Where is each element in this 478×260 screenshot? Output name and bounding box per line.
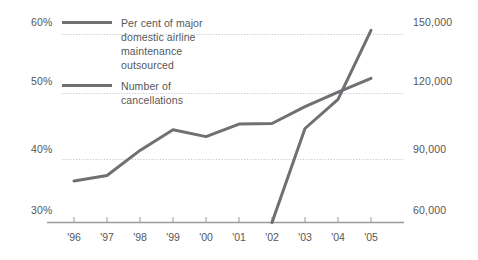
y-axis-right-tick-120000: 120,000 [413,75,452,87]
x-axis-label-99: '99 [166,231,180,243]
y-axis-left-tick-40: 40% [31,143,53,155]
y-axis-left-tick-60: 60% [31,16,53,28]
x-axis-label-03: '03 [298,231,312,243]
y-axis-left-tick-50: 50% [31,75,53,87]
legend-label-percent-outsourced: Per cent of major domestic airline maint… [121,16,203,72]
legend-item-percent-outsourced: Per cent of major domestic airline maint… [62,16,203,72]
series-line-cancellations [272,30,371,222]
legend-item-cancellations: Number of cancellations [62,79,183,107]
legend-label-cancellations: Number of cancellations [121,79,183,107]
y-axis-left-tick-30: 30% [31,204,53,216]
x-axis-label-05: '05 [364,231,378,243]
y-axis-right-tick-60000: 60,000 [413,204,446,216]
x-axis-label-00: '00 [199,231,213,243]
legend-swatch-icon-cancellations [62,84,112,87]
x-axis-label-02: '02 [265,231,279,243]
legend-swatch-icon-percent-outsourced [62,21,112,24]
x-axis-label-01: '01 [232,231,246,243]
x-axis-label-96: '96 [67,231,81,243]
x-axis-label-04: '04 [331,231,345,243]
y-axis-right-tick-90000: 90,000 [413,143,446,155]
chart-container: 60% 50% 40% 30% 150,000 120,000 90,000 6… [0,0,478,260]
y-axis-right-tick-150000: 150,000 [413,16,452,28]
x-axis-label-98: '98 [133,231,147,243]
x-axis-label-97: '97 [100,231,114,243]
